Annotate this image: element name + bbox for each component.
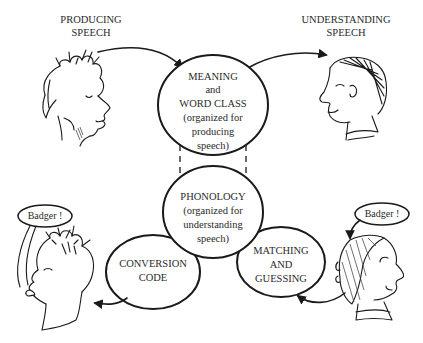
node-line: MEANING (188, 71, 238, 82)
language-processing-diagram: PRODUCING SPEECH UNDERSTANDING SPEECH CO… (0, 0, 423, 343)
node-line: (organized for (183, 205, 243, 217)
node-line: CODE (139, 272, 168, 283)
node-line: and (205, 84, 221, 95)
hair-icon (339, 235, 384, 304)
arrow-meaning-to-listener (248, 53, 326, 68)
node-line: (organized for (183, 112, 243, 124)
hair-icon (37, 231, 94, 292)
node-line: WORD CLASS (179, 98, 247, 109)
caption-producing-speech: PRODUCING SPEECH (60, 14, 122, 38)
arrow-listener-to-matching (298, 293, 345, 302)
face-profile-icon (29, 270, 46, 304)
caption-line: SPEECH (326, 27, 366, 38)
node-line: AND (270, 259, 293, 270)
node-line: CONVERSION (119, 258, 187, 269)
node-phonology: PHONOLOGY (organized for understanding s… (163, 166, 263, 258)
node-line: speech) (197, 140, 230, 152)
bubble-text: Badger ! (28, 210, 63, 221)
caption-line: SPEECH (71, 27, 111, 38)
face-profile-icon (320, 68, 350, 123)
figure-listener-bottom-right (336, 235, 404, 320)
speech-bubble-right: Badger ! (350, 203, 409, 238)
caption-line: UNDERSTANDING (302, 14, 391, 25)
arrow-producer-to-meaning (98, 48, 182, 67)
bubble-text: Badger ! (365, 208, 400, 219)
ear-icon (350, 85, 357, 97)
node-line: GUESSING (255, 273, 307, 284)
figure-speaker-top-left (43, 50, 110, 146)
node-line: PHONOLOGY (180, 191, 246, 202)
figure-listener-top-right (320, 57, 387, 140)
node-line: understanding (183, 219, 243, 230)
node-line: producing (192, 126, 235, 137)
caption-line: PRODUCING (60, 14, 122, 25)
caption-understanding-speech: UNDERSTANDING SPEECH (302, 14, 391, 38)
speech-bubble-left: Badger ! (18, 205, 72, 287)
face-profile-icon (374, 238, 404, 300)
face-profile-icon (90, 96, 110, 136)
node-meaning-and-word-class: MEANING and WORD CLASS (organized for pr… (158, 55, 268, 155)
node-line: MATCHING (253, 245, 309, 256)
figure-speaker-bottom-left (26, 226, 94, 330)
node-line: speech) (197, 233, 230, 245)
